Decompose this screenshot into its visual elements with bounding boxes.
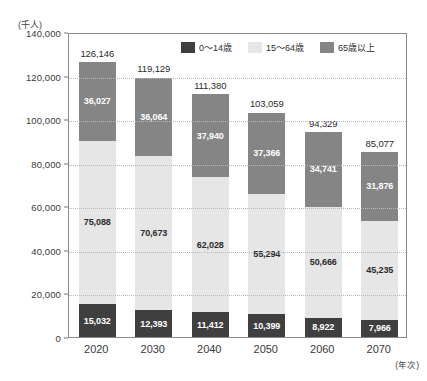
bar-segment-old[interactable]: 36,064 (135, 78, 172, 157)
bar-segment-old[interactable]: 34,741 (305, 132, 342, 208)
bar-segment-old[interactable]: 37,366 (248, 113, 285, 194)
bar-segment-value-label: 45,235 (366, 265, 393, 275)
bar-stack: 34,74150,6668,922 (305, 132, 342, 337)
bar-segment-adult[interactable]: 70,673 (135, 156, 172, 310)
bar-segment-value-label: 7,966 (369, 323, 391, 333)
bars-layer: 36,02775,08815,032126,14636,06470,67312,… (69, 34, 406, 337)
legend-label: 65歳以上 (338, 41, 375, 54)
x-axis-tick-label: 2030 (141, 343, 165, 355)
bar-segment-value-label: 36,027 (84, 96, 111, 106)
bar-segment-value-label: 34,741 (310, 164, 337, 174)
bar-segment-value-label: 50,666 (310, 257, 337, 267)
bar-segment-young[interactable]: 12,393 (135, 310, 172, 337)
bar-segment-value-label: 75,088 (84, 217, 111, 227)
x-axis-tick-label: 2040 (197, 343, 221, 355)
bar-segment-value-label: 11,412 (197, 320, 223, 330)
bar-segment-old[interactable]: 31,876 (361, 152, 398, 221)
legend-item[interactable]: 65歳以上 (320, 41, 375, 54)
gridline (69, 121, 406, 122)
x-axis-tick-label: 2060 (310, 343, 334, 355)
bar-segment-value-label: 15,032 (84, 316, 111, 326)
legend-item[interactable]: 15〜64歳 (248, 41, 304, 54)
bar-stack: 36,06470,67312,393 (135, 78, 172, 338)
bar-segment-young[interactable]: 8,922 (305, 318, 342, 337)
bar-segment-value-label: 12,393 (140, 319, 167, 329)
y-axis-tick-label: 120,000 (26, 71, 61, 82)
bar-total-label: 126,146 (80, 48, 114, 59)
gridline (69, 208, 406, 209)
x-axis-tick-label: 2020 (84, 343, 108, 355)
bar-total-label: 111,380 (194, 80, 226, 91)
bar-segment-value-label: 8,922 (312, 322, 334, 332)
bar-stack: 37,94062,02811,412 (192, 94, 229, 337)
x-axis-tick-label: 2070 (367, 343, 391, 355)
bar-segment-value-label: 62,028 (197, 240, 224, 250)
bar-total-label: 85,077 (366, 138, 394, 149)
legend-label: 0〜14歳 (199, 41, 232, 54)
gridline (69, 295, 406, 296)
bar-segment-adult[interactable]: 50,666 (305, 207, 342, 317)
y-axis-tick-label: 20,000 (31, 289, 61, 300)
legend-item[interactable]: 0〜14歳 (181, 41, 232, 54)
bar-stack: 31,87645,2357,966 (361, 152, 398, 337)
bar-segment-young[interactable]: 15,032 (79, 304, 116, 337)
bar-segment-young[interactable]: 7,966 (361, 320, 398, 337)
x-axis-note: (年次) (395, 358, 419, 370)
y-axis-tick-label: 80,000 (31, 158, 61, 169)
x-axis-tick-label: 2050 (254, 343, 278, 355)
bar-segment-old[interactable]: 36,027 (79, 62, 116, 140)
chart-legend: 0〜14歳15〜64歳65歳以上 (181, 41, 375, 54)
legend-label: 15〜64歳 (266, 41, 304, 54)
gridline (69, 165, 406, 166)
y-axis-tick-label: 140,000 (26, 28, 61, 39)
population-stacked-bar-chart: (千人) 020,00040,00060,00080,000100,000120… (0, 0, 427, 381)
gridline (69, 78, 406, 79)
legend-swatch-icon (181, 42, 195, 53)
bar-segment-value-label: 70,673 (140, 228, 167, 238)
bar-segment-young[interactable]: 11,412 (192, 312, 229, 337)
y-axis-tick-label: 100,000 (26, 115, 61, 126)
y-axis-tick-label: 60,000 (31, 202, 61, 213)
bar-total-label: 94,329 (309, 118, 337, 129)
legend-swatch-icon (320, 42, 334, 53)
bar-segment-value-label: 55,294 (253, 249, 280, 259)
bar-segment-value-label: 31,876 (366, 181, 393, 191)
bar-total-label: 119,129 (137, 63, 170, 74)
x-axis: 202020302040205020602070 (68, 340, 407, 360)
gridline (69, 252, 406, 253)
bar-segment-value-label: 10,399 (253, 321, 280, 331)
y-axis-tick-label: 0 (56, 333, 61, 344)
bar-segment-young[interactable]: 10,399 (248, 314, 285, 337)
legend-swatch-icon (248, 42, 262, 53)
bar-stack: 37,36655,29410,399 (248, 113, 285, 337)
bar-segment-value-label: 37,940 (197, 131, 224, 141)
y-axis-tick-label: 40,000 (31, 245, 61, 256)
bar-segment-adult[interactable]: 62,028 (192, 177, 229, 312)
bar-segment-value-label: 37,366 (253, 148, 280, 158)
y-axis: 020,00040,00060,00080,000100,000120,0001… (0, 33, 68, 338)
bar-segment-adult[interactable]: 45,235 (361, 221, 398, 320)
bar-total-label: 103,059 (250, 98, 284, 109)
plot-area: 0〜14歳15〜64歳65歳以上 36,02775,08815,032126,1… (68, 33, 407, 338)
